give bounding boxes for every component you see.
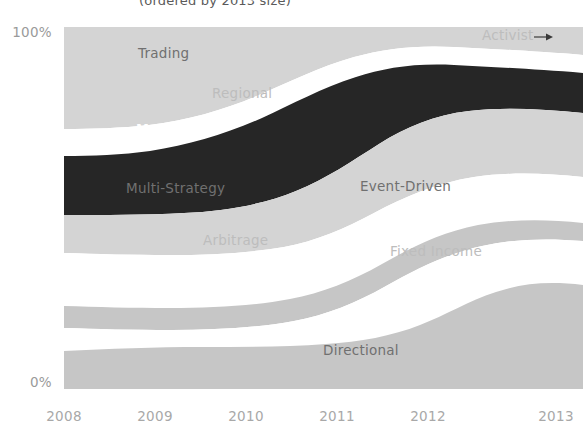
x-tick-2008: 2008 — [46, 408, 82, 424]
x-tick-2010: 2010 — [228, 408, 264, 424]
y-axis-label-top: 100% — [0, 24, 52, 40]
streamgraph-chart: (ordered by 2013 size) 100% 0% Trading R… — [0, 0, 583, 441]
stream-bands-plot — [64, 27, 583, 389]
x-axis-tick-labels: 2008 2009 2010 2011 2012 2013 — [0, 408, 583, 428]
x-tick-2013: 2013 — [538, 408, 574, 424]
x-tick-2009: 2009 — [137, 408, 173, 424]
x-tick-2011: 2011 — [319, 408, 355, 424]
y-axis-label-bottom: 0% — [0, 374, 52, 390]
x-tick-2012: 2012 — [410, 408, 446, 424]
chart-subtitle: (ordered by 2013 size) — [0, 0, 430, 8]
